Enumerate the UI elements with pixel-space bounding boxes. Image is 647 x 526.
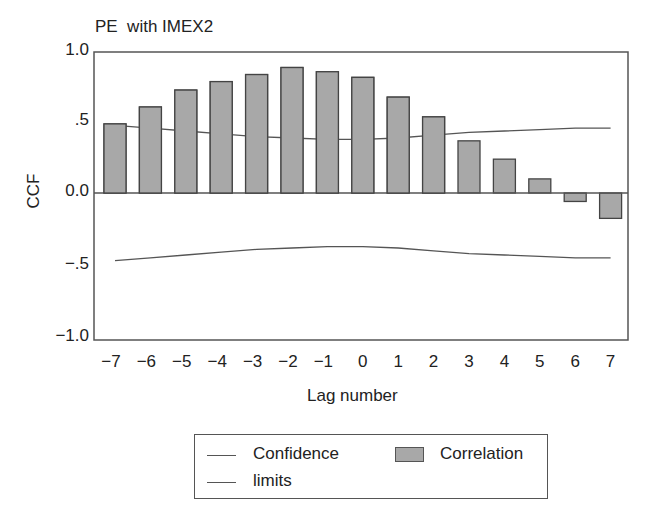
- x-tick-label: −4: [202, 352, 232, 372]
- correlation-bar: [493, 159, 515, 193]
- correlation-bar-overlay: [352, 77, 374, 193]
- chart-legend: Confidence limits Correlation: [194, 434, 548, 499]
- y-tick-neg-0.5: −.5: [65, 254, 89, 274]
- x-tick-label: −1: [308, 352, 338, 372]
- correlation-bar-overlay: [316, 72, 338, 193]
- correlation-bar-overlay: [139, 107, 161, 193]
- x-tick-label: 5: [525, 352, 555, 372]
- x-tick-label: 3: [454, 352, 484, 372]
- x-tick-label: −3: [238, 352, 268, 372]
- x-axis-label: Lag number: [307, 386, 398, 406]
- confidence-line-symbol: [207, 455, 236, 456]
- x-tick-label: 7: [596, 352, 626, 372]
- legend-label-correlation: Correlation: [440, 444, 523, 464]
- x-tick-label: −2: [273, 352, 303, 372]
- y-tick-1.0: 1.0: [65, 40, 89, 60]
- y-axis-label: CCF: [24, 171, 44, 211]
- lower-confidence-line: [115, 247, 611, 261]
- correlation-bar-overlay: [423, 117, 445, 193]
- x-tick-label: −6: [131, 352, 161, 372]
- y-tick-neg-1.0: −1.0: [55, 326, 89, 346]
- correlation-bar-overlay: [387, 97, 409, 193]
- x-tick-label: 0: [348, 352, 378, 372]
- x-tick-label: 4: [489, 352, 519, 372]
- x-tick-label: 2: [419, 352, 449, 372]
- x-tick-label: 6: [560, 352, 590, 372]
- legend-label-limits: limits: [253, 471, 292, 491]
- y-tick-0.0: 0.0: [65, 181, 89, 201]
- correlation-bar: [529, 179, 551, 193]
- x-tick-label: −7: [96, 352, 126, 372]
- correlation-bar-overlay: [175, 90, 197, 193]
- correlation-bar-overlay: [104, 124, 126, 193]
- correlation-bar-overlay: [246, 75, 268, 193]
- correlation-bar: [600, 193, 622, 218]
- legend-label-confidence: Confidence: [253, 444, 339, 464]
- x-tick-label: −5: [167, 352, 197, 372]
- correlation-bar: [564, 193, 586, 201]
- chart-title: PE with IMEX2: [95, 17, 213, 37]
- confidence-line-symbol-2: [207, 482, 236, 483]
- y-tick-0.5: .5: [75, 110, 89, 130]
- x-tick-label: 1: [383, 352, 413, 372]
- correlation-bar: [458, 141, 480, 193]
- correlation-bar-swatch: [395, 447, 424, 462]
- correlation-bar-overlay: [210, 82, 232, 193]
- correlation-bar-overlay: [281, 68, 303, 193]
